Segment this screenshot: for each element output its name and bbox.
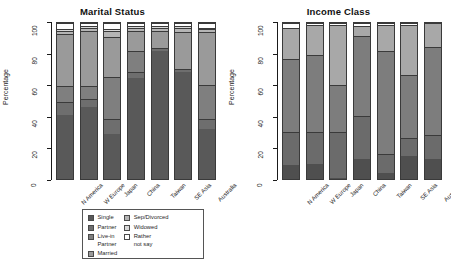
stacked-bar	[400, 22, 418, 180]
stacked-bar	[377, 22, 395, 180]
bar-segment	[378, 51, 394, 154]
bar-segment	[330, 85, 346, 132]
y-axis-tick	[47, 180, 51, 181]
x-axis-tick-label: N America	[81, 182, 105, 206]
x-axis-tick-label: China	[146, 182, 161, 197]
legend-item: Widowed	[124, 224, 168, 231]
x-axis-tick-label: Australia	[442, 182, 451, 203]
bar-segment	[152, 28, 168, 31]
bar-segment	[401, 25, 417, 76]
legend-label: Partner	[98, 224, 117, 231]
bar-segment	[425, 159, 441, 180]
stacked-bar	[127, 22, 145, 180]
bar-segment	[175, 28, 191, 33]
bar-segment	[104, 31, 120, 37]
y-axis-tick-label: 80	[258, 57, 265, 64]
legend-column: SinglePartnerLive-in PartnerMarried	[88, 214, 117, 254]
y-axis-tick	[273, 117, 277, 118]
figure-canvas: Marital Status Percentage 020406080100 N…	[0, 0, 451, 275]
legend-item: Partner	[88, 224, 117, 231]
y-axis-tick-label: 0	[32, 183, 39, 187]
legend-item: Live-in Partner	[88, 233, 117, 247]
x-axis-tick-label: N America	[307, 182, 331, 206]
x-axis-tick-label: Taiwan	[169, 182, 186, 199]
y-axis-tick-label: 100	[258, 25, 265, 36]
bar-segment	[175, 32, 191, 68]
legend-label: Single	[98, 214, 114, 221]
bar-segment	[104, 134, 120, 180]
bar-segment	[57, 86, 73, 102]
legend-swatch-icon	[124, 234, 130, 240]
bar-segment	[175, 69, 191, 72]
plot-area-marital-status: 020406080100	[56, 22, 216, 180]
bar-segment	[152, 31, 168, 48]
bar-segment	[152, 23, 168, 26]
bar-segment	[81, 107, 97, 180]
bar-segment	[330, 23, 346, 25]
legend-label: Sep/Divorced	[134, 214, 169, 221]
legend-item: Married	[88, 250, 117, 257]
x-axis-labels-marital-status: N AmericaW EuropeJapanChinaTaiwanSE Asia…	[56, 182, 216, 212]
y-axis-tick	[273, 148, 277, 149]
bar-segment	[128, 72, 144, 78]
bar-segment	[354, 116, 370, 159]
bar-segment	[354, 36, 370, 117]
legend-swatch-icon	[88, 234, 94, 240]
legend-swatch-icon	[124, 225, 130, 231]
x-axis-tick-label: Taiwan	[395, 182, 412, 199]
y-axis-tick	[273, 85, 277, 86]
x-axis-tick-label: SE Asia	[193, 182, 212, 201]
stacked-bar	[103, 22, 121, 180]
bar-segment	[57, 34, 73, 86]
bar-segment	[283, 165, 299, 180]
bar-segment	[57, 115, 73, 180]
bar-segment	[354, 159, 370, 180]
stacked-bar	[198, 22, 216, 180]
bar-segment	[283, 23, 299, 28]
bar-segment	[175, 23, 191, 26]
chart-title-marital-status: Marital Status	[0, 6, 225, 17]
stacked-bar	[353, 22, 371, 180]
y-axis-tick	[47, 85, 51, 86]
bar-segment	[307, 55, 323, 132]
stacked-bar	[174, 22, 192, 180]
y-axis-tick	[47, 22, 51, 23]
bar-segment	[425, 135, 441, 159]
bar-segment	[307, 23, 323, 25]
bar-segment	[330, 178, 346, 180]
stacked-bar	[56, 22, 74, 180]
bar-segment	[152, 26, 168, 28]
y-axis-tick-label: 60	[32, 88, 39, 95]
bar-segment	[401, 75, 417, 138]
y-axis-tick-label: 40	[32, 120, 39, 127]
bar-segment	[128, 23, 144, 26]
bar-segment	[128, 31, 144, 52]
y-axis-tick-label: 60	[258, 88, 265, 95]
y-axis-line	[51, 22, 52, 180]
legend-swatch-icon	[88, 215, 94, 221]
bar-segment	[199, 119, 215, 128]
bar-segment	[128, 26, 144, 28]
legend-label: Widowed	[134, 224, 158, 231]
legend-swatch-icon	[88, 251, 94, 257]
y-axis-tick	[273, 180, 277, 181]
y-axis-tick	[273, 22, 277, 23]
bar-segment	[104, 37, 120, 77]
y-axis-tick	[273, 54, 277, 55]
bar-segment	[199, 129, 215, 180]
bar-segment	[81, 26, 97, 28]
stacked-bar	[424, 22, 442, 180]
bar-segment	[378, 173, 394, 180]
y-axis-tick-label: 40	[258, 120, 265, 127]
y-axis-tick-label: 80	[32, 57, 39, 64]
bar-group-marital-status	[56, 22, 216, 180]
bar-segment	[57, 31, 73, 34]
legend-label: Live-in Partner	[98, 233, 117, 247]
bar-segment	[81, 99, 97, 107]
legend-label: Rather not say	[134, 233, 153, 247]
y-axis-tick-label: 20	[258, 152, 265, 159]
legend-item: Single	[88, 214, 117, 221]
y-axis-tick	[47, 54, 51, 55]
bar-segment	[128, 51, 144, 72]
bar-segment	[81, 28, 97, 31]
